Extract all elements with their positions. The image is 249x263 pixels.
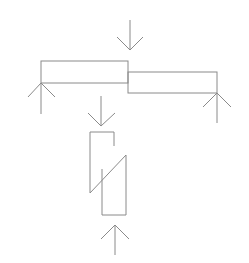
beam-right-segment bbox=[128, 72, 217, 93]
beam-left-segment bbox=[41, 61, 128, 83]
beam-diagram bbox=[0, 0, 249, 263]
support-arrow-left-icon bbox=[28, 83, 55, 114]
load-arrow-middle-icon bbox=[88, 96, 115, 126]
lap-joint-upper-piece bbox=[90, 132, 126, 215]
support-arrow-right-icon bbox=[203, 93, 231, 123]
support-arrow-bottom-icon bbox=[101, 225, 129, 255]
load-arrow-top-icon bbox=[117, 20, 143, 50]
